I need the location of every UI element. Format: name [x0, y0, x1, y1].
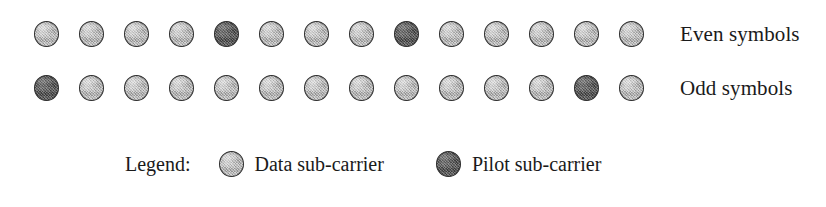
data-subcarrier [349, 21, 374, 47]
row-label-odd: Odd symbols [680, 68, 793, 108]
data-subcarrier-swatch-icon [219, 151, 244, 177]
data-subcarrier [484, 21, 509, 47]
data-subcarrier [529, 75, 554, 101]
data-subcarrier [619, 21, 644, 47]
data-subcarrier [394, 75, 419, 101]
data-subcarrier [169, 21, 194, 47]
data-subcarrier [304, 21, 329, 47]
data-subcarrier [79, 75, 104, 101]
row-label-even: Even symbols [680, 14, 800, 54]
subcarrier-allocation-figure: Even symbols Odd symbols Legend: Data su… [0, 0, 826, 207]
data-subcarrier [79, 21, 104, 47]
legend-entry-data: Data sub-carrier [219, 151, 384, 177]
data-subcarrier [34, 21, 59, 47]
data-subcarrier [574, 21, 599, 47]
pilot-subcarrier [574, 75, 599, 101]
pilot-subcarrier [34, 75, 59, 101]
data-subcarrier [484, 75, 509, 101]
data-subcarrier [439, 21, 464, 47]
symbol-row-even: Even symbols [0, 14, 644, 54]
data-subcarrier [259, 21, 284, 47]
carrier-track-odd [34, 75, 644, 101]
legend-spacer [384, 164, 436, 165]
pilot-subcarrier-swatch-icon [436, 151, 461, 177]
data-subcarrier [124, 75, 149, 101]
legend-label-data: Data sub-carrier [255, 153, 384, 176]
data-subcarrier [124, 21, 149, 47]
symbol-row-odd: Odd symbols [0, 68, 644, 108]
data-subcarrier [214, 75, 239, 101]
legend-label-pilot: Pilot sub-carrier [472, 153, 601, 176]
data-subcarrier [259, 75, 284, 101]
pilot-subcarrier [214, 21, 239, 47]
data-subcarrier [529, 21, 554, 47]
legend: Legend: Data sub-carrier Pilot sub-carri… [125, 148, 601, 180]
data-subcarrier [439, 75, 464, 101]
legend-title: Legend: [125, 153, 191, 176]
carrier-track-even [34, 21, 644, 47]
pilot-subcarrier [394, 21, 419, 47]
data-subcarrier [169, 75, 194, 101]
data-subcarrier [349, 75, 374, 101]
legend-entry-pilot: Pilot sub-carrier [436, 151, 601, 177]
data-subcarrier [304, 75, 329, 101]
data-subcarrier [619, 75, 644, 101]
